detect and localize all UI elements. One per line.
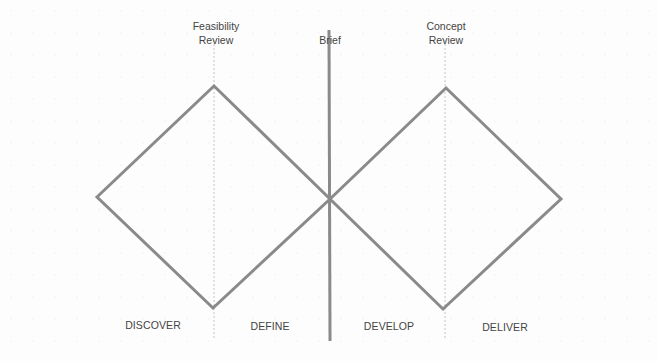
phase-define: DEFINE: [250, 319, 289, 333]
phase-discover: DISCOVER: [125, 318, 181, 332]
concept-review-label-line1: Concept: [426, 19, 465, 33]
feasibility-review-label-line2: Review: [193, 33, 240, 47]
brief-label: Brief: [319, 33, 341, 47]
feasibility-review-label: Feasibility Review: [193, 19, 240, 47]
phase-deliver: DELIVER: [482, 320, 528, 334]
feasibility-review-label-line1: Feasibility: [193, 19, 240, 33]
phase-develop: DEVELOP: [364, 319, 414, 333]
concept-review-label-line2: Review: [426, 33, 465, 47]
brief-line: [329, 30, 330, 341]
brief-label-line1: Brief: [319, 33, 341, 47]
double-diamond-diagram: [0, 0, 657, 361]
concept-review-label: Concept Review: [426, 19, 465, 47]
